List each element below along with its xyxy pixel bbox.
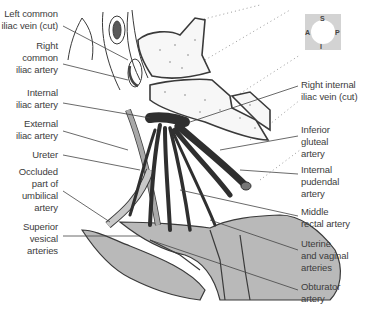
label-left-common-iliac-vein: Left common iliac vein (cut) (2, 8, 58, 32)
compass-posterior: P (335, 29, 340, 36)
label-right-internal-iliac-vein: Right internal iliac vein (cut) (301, 79, 357, 103)
compass-inferior: I (320, 43, 322, 50)
label-occluded-umbilical-artery: Occluded part of umbilical artery (19, 166, 58, 214)
label-inferior-gluteal-artery: Inferior gluteal artery (301, 124, 330, 160)
label-right-common-iliac-artery: Right common iliac artery (16, 40, 58, 76)
label-uterine-vaginal-arteries: Uterine and vaginal arteries (301, 238, 349, 274)
compass-disc (311, 20, 335, 44)
compass-superior: S (320, 15, 325, 22)
label-internal-pudendal-artery: Internal pudendal artery (301, 164, 339, 200)
orientation-compass: S I A P (305, 14, 341, 50)
label-internal-iliac-artery: Internal iliac artery (16, 87, 58, 111)
label-ureter: Ureter (32, 149, 58, 161)
compass-anterior: A (305, 29, 310, 36)
common-iliac-vessels (68, 10, 148, 90)
label-external-iliac-artery: External iliac artery (16, 118, 58, 142)
vein-cut-end (241, 182, 251, 190)
label-superior-vesical-arteries: Superior vesical arteries (23, 221, 58, 257)
label-middle-rectal-artery: Middle rectal artery (301, 206, 350, 230)
label-obturator-artery: Obturator artery (301, 281, 340, 305)
